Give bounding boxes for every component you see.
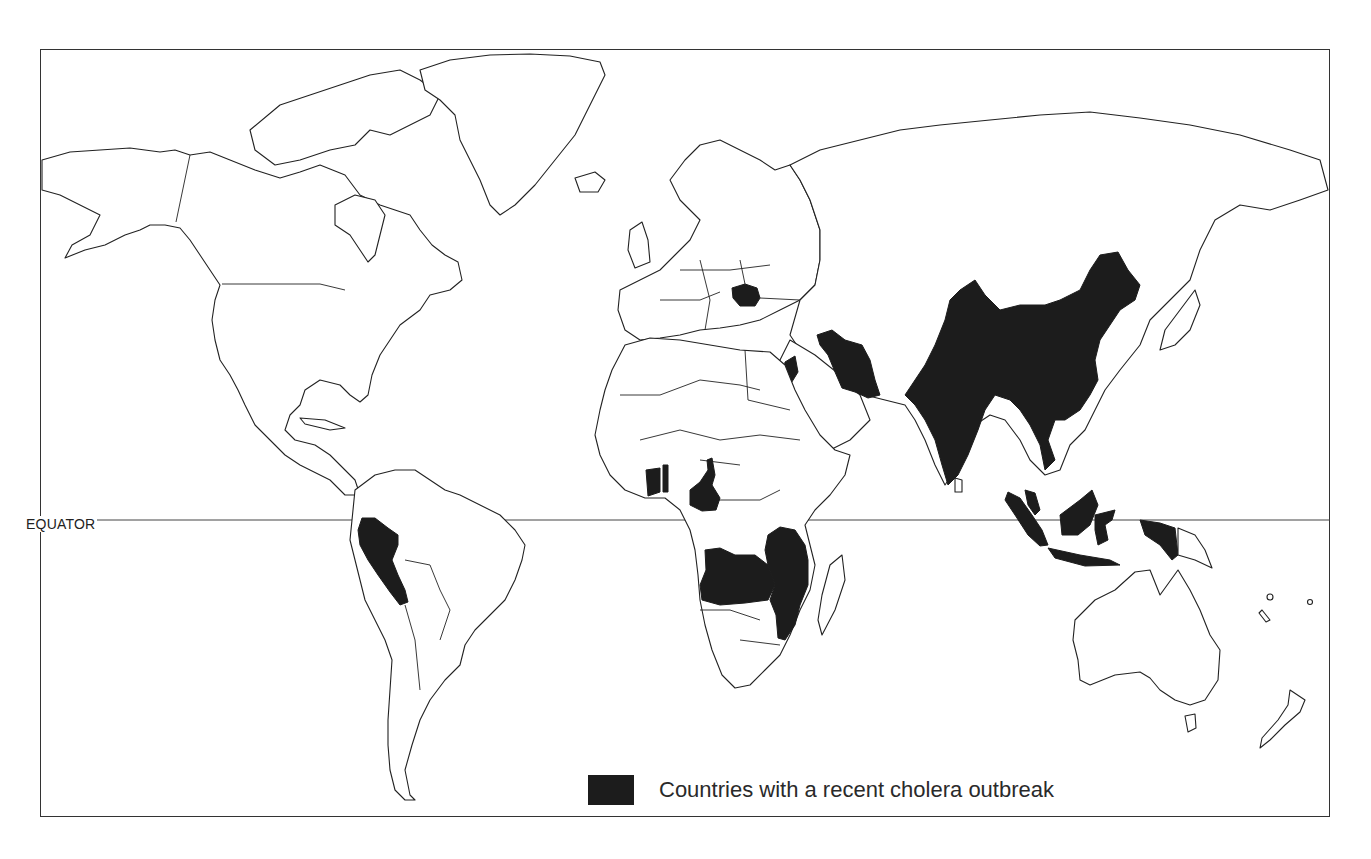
iceland	[575, 172, 605, 192]
asia	[790, 112, 1328, 485]
legend-swatch	[588, 775, 634, 805]
sri-lanka	[955, 478, 962, 492]
outbreak-java	[1048, 548, 1120, 566]
madagascar	[818, 555, 845, 635]
outbreak-togo	[663, 465, 668, 492]
tasmania	[1185, 714, 1196, 732]
pacific-island	[1308, 600, 1313, 605]
greenland	[420, 54, 605, 215]
outbreak-sumatra	[1005, 492, 1048, 546]
outbreak-borneo	[1060, 490, 1098, 535]
legend-label: Countries with a recent cholera outbreak	[659, 777, 1054, 803]
pacific-island	[1259, 610, 1270, 622]
outbreak-sulawesi	[1095, 510, 1115, 545]
world-map	[0, 0, 1371, 859]
outbreak-ghana	[646, 468, 660, 496]
outbreak-papua	[1140, 520, 1178, 560]
legend: Countries with a recent cholera outbreak	[588, 775, 1054, 805]
pacific-island	[1267, 594, 1273, 600]
papua-new-guinea	[1178, 528, 1212, 568]
uk	[628, 222, 650, 268]
cuba	[300, 418, 345, 430]
north-america	[42, 148, 462, 495]
equator-label: EQUATOR	[24, 516, 97, 532]
arctic-islands	[250, 70, 440, 165]
new-zealand	[1260, 690, 1305, 748]
australia	[1073, 570, 1220, 705]
